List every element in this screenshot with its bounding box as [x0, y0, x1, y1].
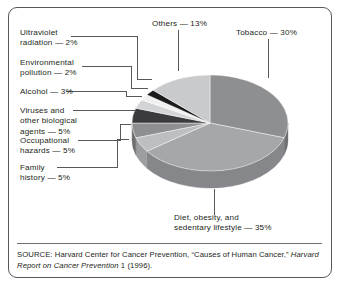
label-ultraviolet-radiation: Ultraviolet radiation — 2%: [20, 28, 78, 49]
label-diet-line1: Diet, obesity, and: [174, 213, 272, 223]
figure-container: Tobacco — 30%Diet, obesity, and sedentar…: [0, 0, 341, 287]
pie-top-faces: Tobacco — 30%Diet, obesity, and sedentar…: [132, 75, 288, 171]
label-family-history: Family history — 5%: [20, 163, 70, 184]
label-occupational-hazards: Occupational hazards — 5%: [20, 136, 75, 157]
label-tobacco-line1: Tobacco — 30%: [236, 28, 297, 38]
label-others-line1: Others — 13%: [152, 19, 207, 29]
label-occupational-line1: Occupational: [20, 136, 75, 146]
label-others: Others — 13%: [152, 19, 207, 29]
pie-chart-svg: Tobacco — 30%Diet, obesity, and sedentar…: [130, 57, 290, 207]
label-alcohol-line1: Alcohol — 3%: [20, 87, 73, 97]
source-prefix: SOURCE: Harvard Center for Cancer Preven…: [17, 250, 291, 259]
label-family-line2: history — 5%: [20, 173, 70, 183]
source-divider: [17, 243, 322, 244]
label-viruses-biological-agents: Viruses and other biological agents — 5%: [20, 106, 77, 137]
pie-chart: Tobacco — 30%Diet, obesity, and sedentar…: [130, 57, 290, 207]
label-environmental-line1: Environmental: [20, 58, 77, 68]
label-environmental-pollution: Environmental pollution — 2%: [20, 58, 77, 79]
label-viruses-line1: Viruses and: [20, 106, 77, 116]
label-ultraviolet-line1: Ultraviolet: [20, 28, 78, 38]
label-alcohol: Alcohol — 3%: [20, 87, 73, 97]
label-ultraviolet-line2: radiation — 2%: [20, 38, 78, 48]
label-diet-line2: sedentary lifestyle — 35%: [174, 223, 272, 233]
source-note: SOURCE: Harvard Center for Cancer Preven…: [17, 249, 323, 271]
label-occupational-line2: hazards — 5%: [20, 146, 75, 156]
source-suffix: 1 (1996).: [119, 261, 153, 270]
label-environmental-line2: pollution — 2%: [20, 68, 77, 78]
label-viruses-line2: other biological: [20, 116, 77, 126]
label-family-line1: Family: [20, 163, 70, 173]
label-diet-obesity: Diet, obesity, and sedentary lifestyle —…: [174, 213, 272, 234]
label-tobacco: Tobacco — 30%: [236, 28, 297, 38]
